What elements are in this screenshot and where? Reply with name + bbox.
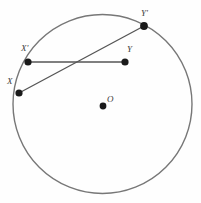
point-label-x: X bbox=[7, 77, 13, 86]
point-dot-xprime bbox=[24, 58, 31, 65]
geometry-figure: X X' Y Y' O bbox=[0, 0, 201, 203]
point-dot-x bbox=[15, 89, 22, 96]
point-label-xprime: X' bbox=[21, 44, 28, 53]
point-label-yprime: Y' bbox=[141, 9, 148, 18]
center-point-dot-o bbox=[100, 103, 107, 110]
point-dot-yprime bbox=[140, 22, 148, 30]
center-label-o: O bbox=[107, 95, 114, 104]
point-label-y: Y bbox=[127, 45, 132, 54]
figure-canvas bbox=[0, 0, 201, 203]
point-dot-y bbox=[121, 58, 128, 65]
